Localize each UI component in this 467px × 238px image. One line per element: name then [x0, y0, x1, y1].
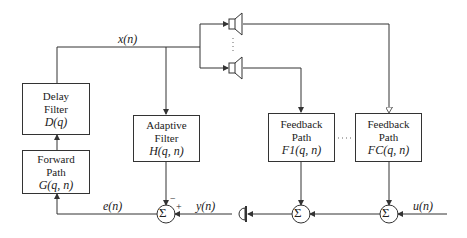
forward-path-label-2: Path [46, 166, 66, 179]
delay-filter-block: Delay Filter D(q) [22, 83, 90, 135]
feedback-path-c-block: Feedback Path FC(q, n) [355, 113, 422, 162]
x-signal-label: x(n) [118, 32, 137, 47]
microphone-icon [239, 208, 245, 220]
adaptive-filter-math: H(q, n) [149, 145, 184, 158]
feedback-path-1-block: Feedback Path F1(q, n) [268, 113, 335, 162]
y-signal-label: y(n) [196, 199, 215, 214]
delay-filter-label-2: Filter [44, 103, 68, 116]
loudspeaker-icon-2 [229, 57, 242, 79]
loudspeaker-icon-1 [229, 13, 242, 35]
feedback-path-1-label: Feedback [280, 118, 322, 131]
delay-filter-label: Delay [43, 90, 69, 103]
summer-3-symbol: Σ [382, 205, 390, 221]
forward-path-block: Forward Path G(q, n) [22, 150, 90, 194]
u-signal-label: u(n) [413, 199, 433, 214]
summer-1-symbol: Σ [159, 205, 167, 221]
plus-sign: + [176, 201, 182, 212]
feedback-path-c-label: Feedback [367, 118, 409, 131]
minus-sign: − [170, 193, 176, 204]
adaptive-filter-label: Adaptive [146, 119, 186, 132]
e-signal-label: e(n) [103, 199, 122, 214]
forward-path-label: Forward [37, 153, 74, 166]
delay-filter-math: D(q) [45, 116, 68, 129]
x-signal-line [57, 47, 200, 83]
summer-2-symbol: Σ [294, 205, 302, 221]
adaptive-filter-block: Adaptive Filter H(q, n) [133, 115, 200, 162]
forward-path-math: G(q, n) [39, 179, 74, 192]
feedback-path-1-math: F1(q, n) [282, 144, 321, 157]
feedback-path-c-math: FC(q, n) [368, 144, 409, 157]
